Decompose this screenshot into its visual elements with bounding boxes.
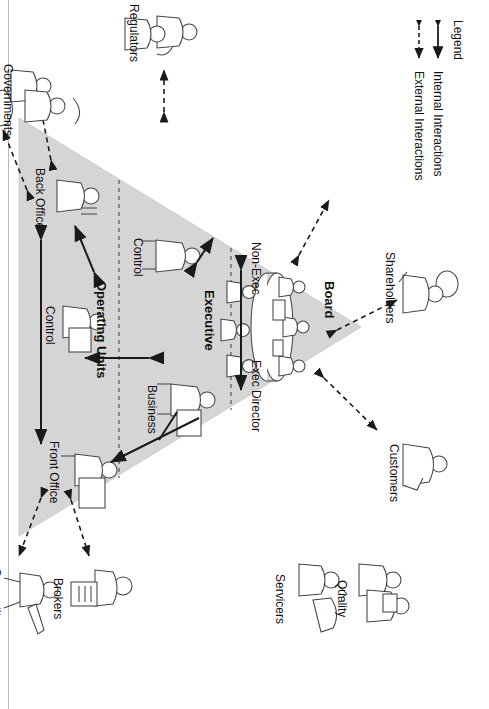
legend-label-external: External Interactions [412, 71, 426, 180]
legend-item-internal: Internal Interactions [431, 20, 445, 180]
rotated-diagram-group: Board Executive Operating Units Exec Dir… [0, 0, 489, 709]
brokers-icon [71, 570, 132, 606]
legend-item-external: External Interactions [412, 20, 426, 180]
governments-icon [11, 70, 80, 124]
role-label-non-exec: Non-Exec [249, 242, 263, 295]
stakeholder-label-governments: Governments [1, 64, 15, 136]
quality-icon [359, 564, 409, 622]
tier-label-operating-units: Operating Units [94, 281, 109, 379]
role-label-control-exec: Control [131, 238, 145, 277]
legend-dashed-arrow-icon [413, 20, 425, 64]
tier-label-board: Board [322, 281, 337, 319]
stakeholder-label-customers: Customers [387, 444, 401, 502]
legend-title: Legend [451, 20, 465, 180]
tier-label-executive: Executive [202, 290, 217, 351]
role-label-control-ops: Control [43, 306, 57, 345]
stakeholder-label-servicers: Servicers [273, 574, 287, 624]
boardroom-table-group-icon [221, 273, 309, 381]
stakeholder-label-regulators: Regulators [127, 4, 141, 62]
competitors-icon [4, 573, 58, 634]
legend-label-internal: Internal Interactions [431, 71, 445, 176]
role-label-back-office: Back Office [33, 168, 47, 229]
shareholders-icon [399, 271, 458, 313]
role-label-exec-director: Exec Director [249, 360, 263, 432]
stakeholder-label-shareholders: Shareholders [383, 252, 397, 323]
stakeholder-label-competitors: Competitors [0, 568, 3, 633]
role-label-front-office: Front Office [47, 441, 61, 503]
stakeholder-label-brokers: Brokers [51, 578, 65, 619]
role-label-business: Business [145, 385, 159, 434]
customers-icon [403, 444, 447, 490]
legend: Legend Internal Interactions [412, 20, 465, 180]
stakeholder-label-quality: Quality [335, 580, 349, 617]
legend-solid-arrow-icon [432, 20, 444, 64]
diagram-inner-canvas: Board Executive Operating Units Exec Dir… [0, 0, 489, 709]
diagram-canvas: Board Executive Operating Units Exec Dir… [0, 0, 489, 709]
